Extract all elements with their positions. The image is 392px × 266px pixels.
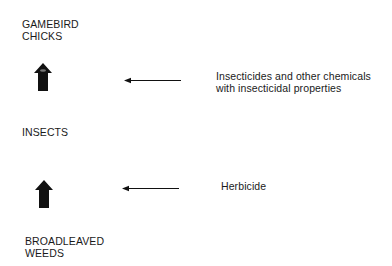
block-up-arrow-icon: [34, 63, 52, 91]
impact-insecticides-label: Insecticides and other chemicals with in…: [216, 70, 371, 94]
node-label-line: CHICKS: [22, 30, 79, 42]
node-label-line: GAMEBIRD: [22, 18, 79, 30]
impact-label-line: Herbicide: [221, 180, 266, 192]
node-broadleaved-weeds: BROADLEAVED WEEDS: [25, 235, 104, 259]
node-label-line: INSECTS: [22, 126, 68, 138]
impact-label-line: with insecticidal properties: [216, 82, 371, 94]
node-insects: INSECTS: [22, 126, 68, 138]
left-arrow-icon: [122, 185, 179, 192]
node-label-line: WEEDS: [25, 247, 104, 259]
left-arrow-icon: [124, 77, 181, 84]
node-gamebird-chicks: GAMEBIRD CHICKS: [22, 18, 79, 42]
node-label-line: BROADLEAVED: [25, 235, 104, 247]
block-up-arrow-icon: [35, 180, 53, 208]
impact-herbicide-label: Herbicide: [221, 180, 266, 192]
impact-label-line: Insecticides and other chemicals: [216, 70, 371, 82]
